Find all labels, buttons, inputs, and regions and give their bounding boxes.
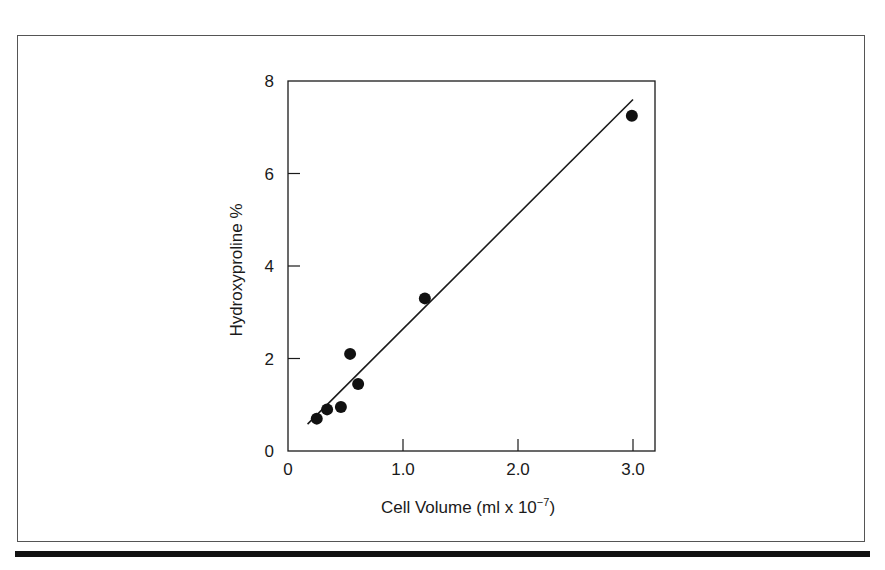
scatter-chart: 02468 01.02.03.0 Hydroxyproline % Cell V… xyxy=(0,0,885,570)
y-axis-ticks: 02468 xyxy=(265,72,300,461)
data-point xyxy=(626,110,638,122)
y-tick-label: 6 xyxy=(265,165,274,184)
y-tick-label: 0 xyxy=(265,442,274,461)
y-tick-label: 8 xyxy=(265,72,274,91)
data-point xyxy=(419,292,431,304)
plot-axes xyxy=(288,81,655,451)
data-point xyxy=(352,378,364,390)
data-point xyxy=(311,413,323,425)
data-point xyxy=(344,348,356,360)
x-tick-label: 2.0 xyxy=(506,460,530,479)
bottom-rule xyxy=(15,551,870,557)
y-tick-label: 4 xyxy=(265,257,274,276)
regression-line xyxy=(308,100,633,425)
y-tick-label: 2 xyxy=(265,350,274,369)
data-points xyxy=(311,110,638,425)
x-tick-label: 3.0 xyxy=(621,460,645,479)
y-axis-label: Hydroxyproline % xyxy=(227,203,246,336)
plot-area-border xyxy=(288,81,655,451)
data-point xyxy=(335,401,347,413)
x-axis-ticks: 01.02.03.0 xyxy=(283,439,645,479)
data-point xyxy=(321,403,333,415)
x-tick-label: 1.0 xyxy=(391,460,415,479)
caption-cutoff xyxy=(28,565,858,570)
fit-line xyxy=(308,100,633,425)
x-axis-label: Cell Volume (ml x 10−7) xyxy=(381,496,555,517)
x-tick-label: 0 xyxy=(283,460,292,479)
